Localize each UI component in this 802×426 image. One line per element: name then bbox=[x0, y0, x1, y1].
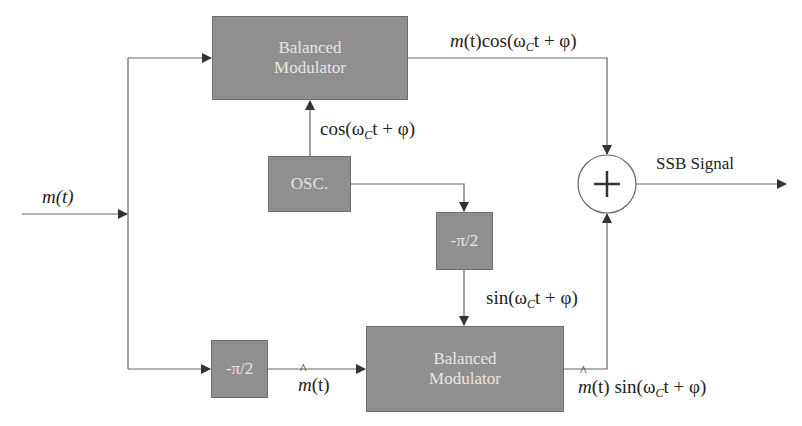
summer-plus-icon bbox=[578, 155, 636, 213]
input-signal-label: m(t) bbox=[42, 186, 74, 208]
message-phase-shifter: -π/2 bbox=[211, 340, 268, 398]
message-phase-shifter-label: -π/2 bbox=[226, 359, 253, 379]
ssb-output-label: SSB Signal bbox=[656, 154, 734, 174]
bottom-modulator-line2: Modulator bbox=[429, 369, 501, 389]
hilbert-message-label: m(t) bbox=[298, 374, 330, 396]
top-output-label: m(t)cos(ωCt + φ) bbox=[450, 30, 577, 55]
oscillator-block: OSC. bbox=[268, 156, 351, 212]
carrier-cos-label: cos(ωCt + φ) bbox=[320, 118, 415, 143]
bottom-modulator-line1: Balanced bbox=[429, 349, 501, 369]
oscillator-label: OSC. bbox=[291, 174, 328, 194]
top-balanced-modulator: Balanced Modulator bbox=[212, 16, 408, 100]
top-modulator-line1: Balanced bbox=[274, 38, 346, 58]
carrier-sin-label: sin(ωCt + φ) bbox=[486, 287, 578, 312]
carrier-phase-shifter: -π/2 bbox=[436, 212, 493, 270]
carrier-phase-shifter-label: -π/2 bbox=[451, 231, 478, 251]
bottom-output-label: m(t) sin(ωCt + φ) bbox=[578, 376, 706, 401]
top-modulator-line2: Modulator bbox=[274, 58, 346, 78]
bottom-balanced-modulator: Balanced Modulator bbox=[366, 326, 564, 412]
